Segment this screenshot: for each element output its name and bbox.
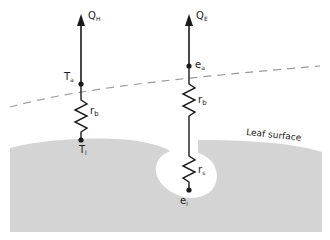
leaf-temperature-node [78,137,83,142]
boundary-resistor-left [75,84,87,140]
boundary-resistance-label-left: rb [90,105,99,118]
vapour-flux-label: QE [196,10,208,22]
heat-flux-path [75,14,87,143]
arrow-up-icon [77,14,85,26]
leaf-vapour-node [186,187,191,192]
leaf-resistance-diagram: QH Ta rb Tl QE ea rb rs el Leaf surface [0,0,330,240]
arrow-up-icon [185,14,193,26]
boundary-resistance-label-right: rb [198,94,207,107]
air-temperature-label: Ta [63,71,74,83]
boundary-layer-line [10,66,320,107]
leaf-surface-label: Leaf surface [246,127,302,143]
heat-flux-label: QH [88,10,100,22]
air-vapour-label: ea [195,59,205,71]
